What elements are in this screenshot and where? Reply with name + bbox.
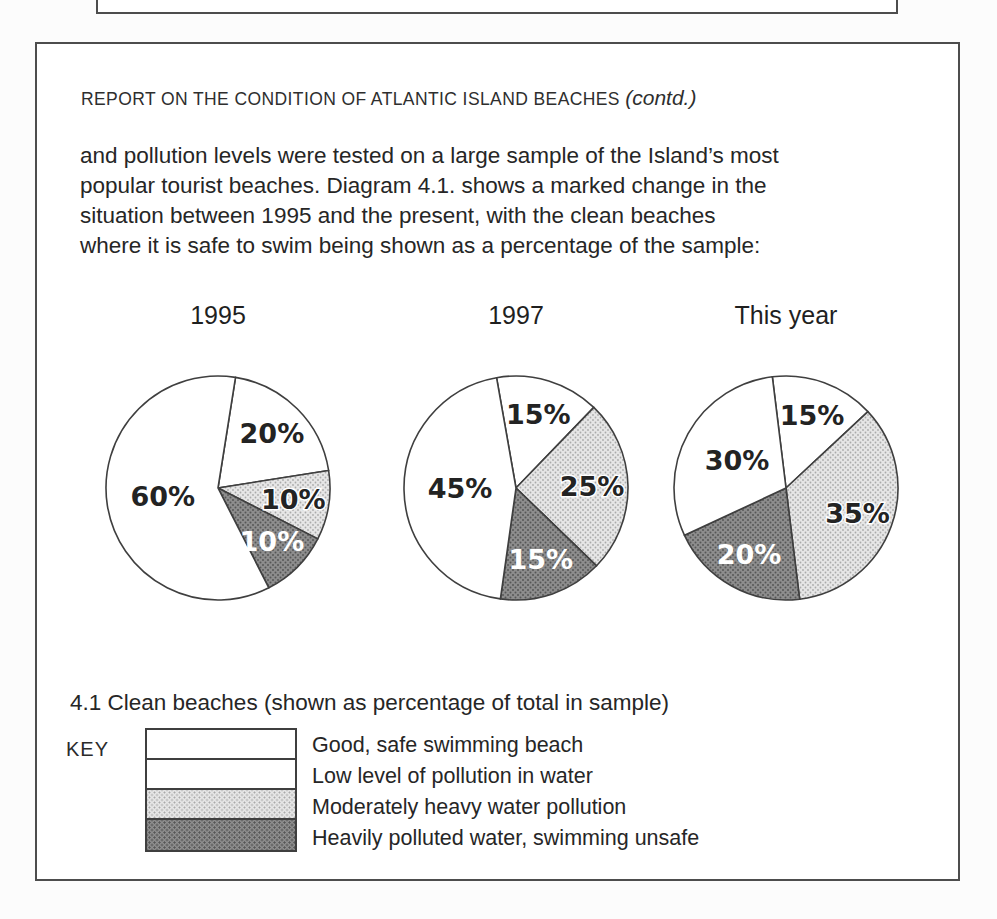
- key-swatch-heavy: [147, 820, 295, 850]
- scanned-report-page: REPORT ON THE CONDITION OF ATLANTIC ISLA…: [0, 0, 997, 919]
- pie-slice-label: 30%: [705, 445, 770, 476]
- pie-slice-label: 25%: [560, 471, 625, 502]
- key-label-good: Good, safe swimming beach: [312, 730, 699, 761]
- key-label-moderate: Moderately heavy water pollution: [312, 792, 699, 823]
- pie-slice-label: 15%: [508, 544, 573, 575]
- pie-slice-label: 35%: [825, 498, 890, 529]
- key-label-low: Low level of pollution in water: [312, 761, 699, 792]
- key-label-heavy: Heavily polluted water, swimming unsafe: [312, 823, 699, 854]
- key-swatch-box: [145, 728, 297, 852]
- pie-this-year: 15%35%20%30%: [674, 376, 898, 600]
- pie-slice-label: 10%: [261, 484, 326, 515]
- pie-1995: 20%10%10%60%: [106, 376, 330, 600]
- previous-box-bottom-edge: [96, 0, 898, 14]
- pie-slice-label: 20%: [717, 539, 782, 570]
- pie-slice-label: 10%: [240, 526, 305, 557]
- key-swatch-moderate: [147, 790, 295, 820]
- key-swatch-low: [147, 760, 295, 790]
- pie-slice-label: 45%: [428, 473, 493, 504]
- pie-slice-label: 15%: [506, 399, 571, 430]
- key-labels: Good, safe swimming beach Low level of p…: [312, 730, 699, 854]
- pie-slice-label: 60%: [130, 481, 195, 512]
- pie-slice-label: 20%: [240, 418, 305, 449]
- key-swatch-good: [147, 730, 295, 760]
- report-panel: REPORT ON THE CONDITION OF ATLANTIC ISLA…: [35, 42, 960, 881]
- pie-slice-label: 15%: [780, 400, 845, 431]
- figure-caption: 4.1 Clean beaches (shown as percentage o…: [70, 690, 669, 716]
- key-heading: KEY: [66, 738, 109, 761]
- pie-1997: 15%25%15%45%: [404, 376, 628, 600]
